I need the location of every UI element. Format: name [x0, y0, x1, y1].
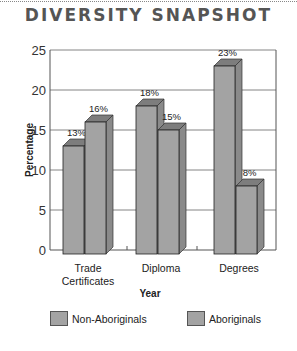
svg-text:Trade: Trade — [74, 262, 101, 274]
svg-text:25: 25 — [32, 43, 46, 58]
svg-text:0: 0 — [39, 243, 46, 258]
svg-text:Percentage: Percentage — [24, 123, 35, 177]
svg-text:Degrees: Degrees — [219, 262, 259, 274]
svg-text:5: 5 — [39, 203, 46, 218]
svg-text:20: 20 — [32, 83, 46, 98]
svg-text:Certificates: Certificates — [62, 275, 115, 287]
svg-text:23%: 23% — [218, 47, 238, 58]
svg-text:Diploma: Diploma — [142, 262, 181, 274]
legend-item-aboriginals: Aboriginals — [187, 311, 261, 326]
svg-text:8%: 8% — [243, 167, 257, 178]
svg-text:16%: 16% — [89, 103, 109, 114]
legend-item-non-aboriginals: Non-Aboriginals — [50, 311, 147, 326]
svg-text:15%: 15% — [162, 111, 182, 122]
svg-text:18%: 18% — [140, 87, 160, 98]
legend-swatch-icon — [50, 311, 68, 326]
svg-text:13%: 13% — [67, 127, 87, 138]
svg-text:Year: Year — [139, 288, 160, 299]
legend-swatch-icon — [187, 311, 205, 326]
legend-label: Aboriginals — [209, 313, 261, 325]
legend-label: Non-Aboriginals — [72, 313, 147, 325]
bar-chart: 0510152025Percentage13%16%TradeCertifica… — [0, 0, 297, 351]
